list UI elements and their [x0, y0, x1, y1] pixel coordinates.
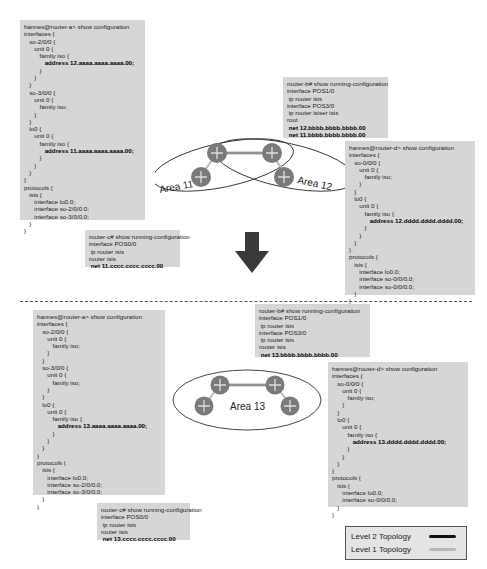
config-line: unit 0 {	[332, 387, 464, 394]
config-line: }	[24, 162, 141, 169]
config-line: unit 0 {	[37, 371, 161, 378]
config-line: family iso;	[332, 394, 464, 401]
config-line: }	[37, 452, 161, 459]
config-line: hannes@router-a> show configuration	[24, 23, 141, 30]
config-line: router isis	[89, 255, 176, 262]
topology-before: Area 11 Area 12	[155, 125, 355, 210]
config-line: address 13.aaaa.aaaa.aaaa.00;	[37, 422, 161, 429]
config-line: unit 0 {	[349, 166, 471, 173]
config-line: address 13.dddd.dddd.dddd.00;	[332, 438, 464, 445]
config-line: ip router isis	[89, 248, 176, 255]
config-line: interface so-2/0/0.0;	[37, 481, 161, 488]
config-line: }	[332, 467, 464, 474]
config-line: interface POS3/0	[287, 102, 384, 109]
legend-label: Level 1 Topology	[351, 545, 429, 554]
config-line: }	[24, 154, 141, 161]
config-line: }	[37, 444, 161, 451]
config-line: unit 0 {	[332, 423, 464, 430]
config-line: unit 0 {	[24, 45, 141, 52]
config-line: }	[332, 445, 464, 452]
router-icon	[281, 397, 300, 416]
config-line: router isis	[101, 528, 186, 535]
config-line: protocols {	[349, 253, 471, 260]
config-line: so-2/0/0 {	[37, 328, 161, 335]
config-line: isis {	[37, 466, 161, 473]
config-line: protocols {	[332, 474, 464, 481]
config-line: }	[332, 504, 464, 511]
router-d-config-before: hannes@router-d> show configurationinter…	[345, 141, 475, 295]
config-line: }	[349, 232, 471, 239]
config-line: router isis	[259, 343, 366, 350]
config-line: rout	[287, 116, 384, 123]
config-line: }	[24, 81, 141, 88]
legend-item-level2: Level 2 Topology	[351, 530, 461, 543]
router-icon	[207, 143, 227, 163]
router-icon	[211, 376, 230, 395]
config-line: unit 0 {	[37, 335, 161, 342]
config-line: ip router isis	[287, 95, 384, 102]
config-line: family iso {	[332, 431, 464, 438]
level1-line-swatch	[429, 548, 456, 551]
config-line: unit 0 {	[349, 202, 471, 209]
config-line: interface lo0.0;	[349, 268, 471, 275]
config-line: address 12.dddd.dddd.dddd.00;	[349, 217, 471, 224]
config-line: }	[349, 246, 471, 253]
config-line: interface POS0/0	[89, 240, 176, 247]
config-line: interface lo0.0;	[24, 198, 141, 205]
config-line: net 13.cccc.cccc.cccc.00	[101, 535, 186, 542]
config-line: so-0/0/0 {	[332, 380, 464, 387]
config-line: lo0 {	[332, 416, 464, 423]
config-line: unit 0 {	[24, 132, 141, 139]
router-a-config-before: hannes@router-a> show configurationinter…	[20, 20, 145, 220]
config-line: router-c# show running-configuration	[89, 233, 176, 240]
level2-line-swatch	[429, 535, 456, 538]
config-line: }	[24, 67, 141, 74]
config-line: ip router isis	[101, 521, 186, 528]
config-line: router-b# show running-configuration	[259, 307, 366, 314]
config-line: interface so-3/0/0.0;	[24, 213, 141, 220]
config-line: router-c# show running-configuration	[101, 506, 186, 513]
config-line: hannes@router-d> show configuration	[349, 144, 471, 151]
legend-label: Level 2 Topology	[351, 532, 429, 541]
config-line: interface so-3/0/0.0;	[37, 488, 161, 495]
config-line: interface POS1/0	[287, 87, 384, 94]
config-line: }	[37, 349, 161, 356]
config-line: protocols {	[37, 459, 161, 466]
section-divider	[20, 301, 472, 302]
config-line: }	[37, 386, 161, 393]
config-line: family iso {	[24, 140, 141, 147]
config-line: isis {	[24, 191, 141, 198]
config-line: family iso {	[37, 415, 161, 422]
area-12-boundary	[210, 129, 355, 202]
config-line: }	[349, 239, 471, 246]
config-line: lo0 {	[24, 125, 141, 132]
config-line: interfaces {	[349, 151, 471, 158]
config-line: }	[24, 111, 141, 118]
config-line: so-3/0/0 {	[37, 364, 161, 371]
config-line: }	[332, 409, 464, 416]
config-line: ip router isiser isis	[287, 109, 384, 116]
config-line: }	[349, 180, 471, 187]
config-line: }	[37, 393, 161, 400]
legend: Level 2 Topology Level 1 Topology	[345, 526, 467, 560]
router-c-config-before: router-c# show running-configurationinte…	[85, 230, 180, 267]
config-line: interface so-0/0/0.0;	[332, 496, 464, 503]
config-line: family iso {	[349, 210, 471, 217]
config-line: }	[24, 169, 141, 176]
config-line: }	[37, 495, 161, 502]
config-line: lo0 {	[37, 401, 161, 408]
config-line: family iso;	[349, 173, 471, 180]
legend-item-level1: Level 1 Topology	[351, 543, 461, 556]
config-line: address 11.aaaa.aaaa.aaaa.00;	[24, 147, 141, 154]
area-11-label: Area 11	[158, 178, 194, 195]
config-line: }	[24, 118, 141, 125]
area-13-label: Area 13	[230, 401, 265, 412]
config-line: router-b# show running-configuration	[287, 80, 384, 87]
config-line: unit 0 {	[24, 96, 141, 103]
config-line: isis {	[349, 261, 471, 268]
config-line: interface lo0.0;	[332, 489, 464, 496]
area-13-boundary	[173, 370, 321, 430]
config-line: interfaces {	[37, 320, 161, 327]
config-line: so-2/0/0 {	[24, 38, 141, 45]
config-line: interface so-0/0/0.0;	[349, 283, 471, 290]
